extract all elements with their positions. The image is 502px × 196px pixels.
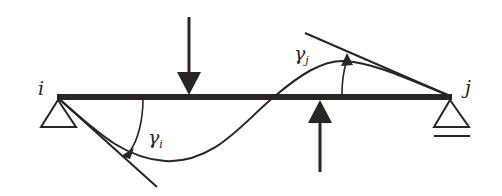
node-label-i: i [38,77,44,99]
left-pin-support [41,100,76,127]
angle-label-gamma-i: γi [148,126,163,151]
right-rotation-arc [341,53,353,94]
upward-load-arrow [308,100,332,172]
beam-diagram: i j γi γj [0,0,502,196]
angle-label-gamma-j: γj [294,42,309,67]
right-roller-support [434,100,469,127]
deflection-curve [58,61,450,161]
right-tangent-line [305,33,450,96]
beam [57,94,452,100]
node-label-j: j [461,76,471,98]
downward-load-arrow [177,17,201,95]
